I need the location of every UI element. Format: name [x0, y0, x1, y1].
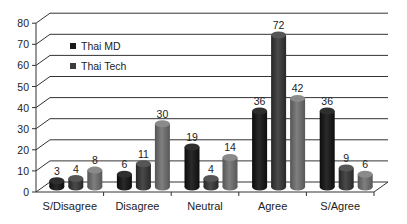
legend-label: Thai Tech [81, 60, 126, 72]
bar-cylinder [68, 175, 83, 190]
bar-chart: 01020304050607080S/DisagreeDisagreeNeutr… [0, 0, 407, 224]
bar-cylinder [339, 165, 354, 191]
data-value-label: 9 [343, 152, 349, 164]
data-value-label: 11 [138, 148, 149, 160]
data-value-label: 30 [157, 108, 169, 120]
data-value-label: 42 [292, 82, 304, 94]
legend: Thai MD Thai Tech [70, 36, 126, 76]
data-value-label: 36 [321, 95, 333, 107]
bar-cylinder [358, 171, 373, 191]
data-value-label: 72 [273, 19, 285, 31]
legend-label: Thai MD [81, 40, 121, 52]
y-tick-label: 10 [17, 165, 29, 177]
data-value-label: 6 [362, 158, 368, 170]
x-category-label: S/Agree [320, 200, 360, 212]
bar-cylinder [185, 143, 200, 190]
y-tick-label: 30 [17, 123, 29, 135]
y-tick-label: 40 [17, 102, 29, 114]
legend-swatch-icon [70, 43, 76, 49]
bar-cylinder [223, 154, 238, 191]
data-value-label: 14 [224, 141, 236, 153]
x-category-label: S/Disagree [43, 200, 97, 212]
y-tick-label: 60 [17, 59, 29, 71]
x-category-label: Agree [258, 200, 287, 212]
x-category-label: Neutral [187, 200, 222, 212]
x-category-label: Disagree [115, 200, 159, 212]
legend-item-thai-md: Thai MD [70, 36, 126, 56]
bar-cylinder [290, 95, 305, 191]
data-value-label: 3 [54, 165, 60, 177]
bar-cylinder [320, 108, 335, 191]
bar-cylinder [155, 120, 170, 190]
legend-item-thai-tech: Thai Tech [70, 56, 126, 76]
bar-cylinder [136, 160, 151, 190]
bar-cylinder [271, 32, 286, 191]
y-tick-label: 80 [17, 17, 29, 29]
data-value-label: 6 [121, 158, 127, 170]
bar-cylinder [87, 167, 102, 191]
bar-cylinder [117, 171, 132, 191]
data-value-label: 19 [186, 131, 198, 143]
legend-swatch-icon [70, 63, 76, 69]
bar-cylinder [252, 108, 267, 191]
bar-cylinder [49, 177, 64, 190]
y-tick-label: 20 [17, 144, 29, 156]
y-tick-label: 70 [17, 38, 29, 50]
data-value-label: 36 [254, 95, 266, 107]
data-value-label: 4 [208, 163, 214, 175]
data-value-label: 8 [92, 154, 98, 166]
data-value-label: 4 [73, 163, 79, 175]
bar-cylinder [204, 175, 219, 190]
y-tick-label: 0 [23, 186, 29, 198]
y-tick-label: 50 [17, 81, 29, 93]
